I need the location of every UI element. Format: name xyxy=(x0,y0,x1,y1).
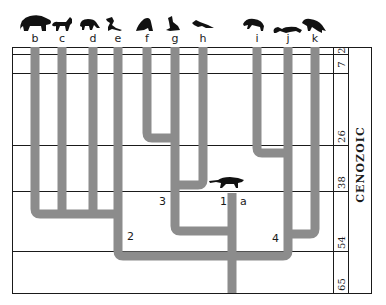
fox-icon xyxy=(52,17,72,31)
weasel-icon xyxy=(106,17,122,31)
age-label-26: 26 xyxy=(336,128,347,146)
raccoon-icon xyxy=(80,19,100,30)
ancestor-label-a: a xyxy=(240,195,247,208)
age-label-7: 7 xyxy=(336,59,347,71)
age-label-65: 65 xyxy=(336,276,347,294)
tree-branches xyxy=(35,47,315,293)
cat-icon xyxy=(302,19,326,33)
taxon-label-f: f xyxy=(145,32,149,45)
age-label-2: 2 xyxy=(336,45,347,57)
node-label-4: 4 xyxy=(272,232,279,245)
hyena-icon xyxy=(243,19,264,31)
age-label-54: 54 xyxy=(336,234,347,252)
node-label-3: 3 xyxy=(159,195,166,208)
phylogeny-diagram: b c d e f g h i j k 3 1 a 2 4 2 7 26 38 … xyxy=(0,0,386,305)
taxon-label-k: k xyxy=(312,32,318,45)
taxon-label-c: c xyxy=(59,32,65,45)
taxon-label-i: i xyxy=(255,32,258,45)
taxon-label-d: d xyxy=(90,32,97,45)
taxon-label-b: b xyxy=(32,32,39,45)
taxon-label-e: e xyxy=(115,32,122,45)
taxon-label-h: h xyxy=(200,32,207,45)
age-label-38: 38 xyxy=(336,174,347,192)
era-label: CENOZOIC xyxy=(354,120,367,210)
node-label-1: 1 xyxy=(220,195,227,208)
seal-icon xyxy=(192,20,214,28)
ancestor-miacid-icon xyxy=(209,177,244,188)
sea-lion-icon xyxy=(166,16,180,31)
node-label-2: 2 xyxy=(127,230,134,243)
taxon-label-j: j xyxy=(286,32,289,45)
bear-icon xyxy=(20,15,51,31)
taxon-label-g: g xyxy=(172,32,179,45)
walrus-icon xyxy=(136,18,153,31)
